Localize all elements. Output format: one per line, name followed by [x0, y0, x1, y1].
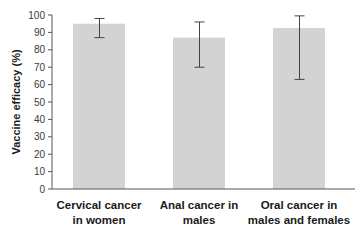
y-tick-label: 10	[34, 166, 46, 177]
y-tick-label: 100	[28, 10, 45, 21]
y-tick-label: 90	[34, 27, 46, 38]
bar-chart: 0102030405060708090100 Vaccine efficacy …	[0, 0, 363, 232]
y-tick-label: 20	[34, 149, 46, 160]
y-tick-label: 70	[34, 62, 46, 73]
y-tick-label: 0	[39, 184, 45, 195]
category-label: Anal cancer inmales	[160, 199, 239, 226]
category-labels: Cervical cancerin womenAnal cancer inmal…	[56, 199, 350, 226]
y-tick-label: 60	[34, 79, 46, 90]
bar	[73, 24, 125, 189]
category-label: Cervical cancerin women	[56, 199, 142, 226]
y-tick-label: 40	[34, 114, 46, 125]
y-tick-label: 50	[34, 97, 46, 108]
category-label: Oral cancer inmales and females	[248, 199, 350, 226]
y-axis: 0102030405060708090100	[28, 10, 52, 195]
y-axis-title: Vaccine efficacy (%)	[10, 49, 22, 155]
y-tick-label: 30	[34, 131, 46, 142]
y-tick-label: 80	[34, 44, 46, 55]
